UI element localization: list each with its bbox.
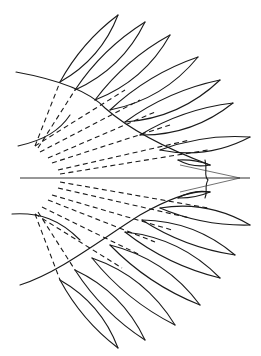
lower-inner-curve	[12, 214, 80, 240]
construction-line	[35, 214, 60, 280]
petal-edge	[60, 15, 118, 82]
petal-edge	[110, 245, 200, 305]
upper-boundary-curve	[16, 72, 210, 165]
petal-edge	[95, 35, 170, 100]
petal-edge	[110, 57, 198, 110]
construction-line	[35, 90, 125, 146]
petal-edge	[160, 208, 250, 225]
petal-edge	[140, 103, 233, 135]
construction-line	[35, 214, 122, 268]
fan-diagram-svg	[0, 0, 261, 356]
construction-line	[35, 82, 60, 146]
petal-edge	[95, 35, 170, 100]
petal-edge	[60, 15, 118, 82]
construction-line	[48, 200, 155, 242]
construction-line	[40, 100, 140, 152]
petal-edge	[160, 206, 250, 225]
center-tip	[180, 165, 240, 192]
petal-edge	[142, 220, 235, 255]
petal-edge	[110, 57, 198, 110]
fan-diagram	[0, 0, 261, 356]
construction-line	[38, 90, 75, 148]
petal-edge	[110, 245, 200, 305]
upper-fan	[35, 15, 250, 174]
upper-inner-curve	[18, 115, 70, 146]
petal-edge	[140, 103, 233, 135]
lower-fan	[35, 182, 250, 348]
construction-line	[60, 150, 208, 174]
construction-line	[48, 112, 155, 158]
petal-edge	[142, 220, 235, 255]
